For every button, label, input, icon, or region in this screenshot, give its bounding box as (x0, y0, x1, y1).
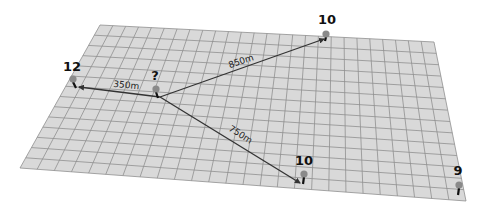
pin-stem-icon (303, 177, 304, 184)
pin-head-icon (455, 181, 462, 188)
pin-value-label: 10 (295, 153, 313, 168)
pin-head-icon (300, 170, 307, 177)
pin-value-label: 10 (318, 12, 336, 27)
pin-value-label: 12 (63, 59, 81, 74)
pin-stem-icon (458, 188, 459, 195)
grid-plane (20, 25, 466, 201)
pin-stem-icon (325, 37, 326, 41)
pin-head-icon (152, 85, 159, 92)
pin-head-icon (322, 30, 329, 37)
pin-head-icon (69, 75, 76, 82)
pin-value-label: ? (151, 68, 159, 83)
map-diagram: 350m850m750m ?1210109 (0, 0, 486, 211)
pin-value-label: 9 (453, 163, 462, 178)
